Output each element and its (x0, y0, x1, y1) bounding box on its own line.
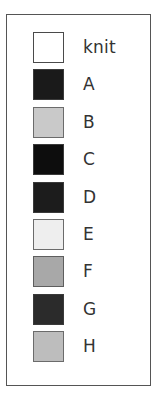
legend-label: A (83, 69, 95, 100)
legend-entry: H (7, 331, 150, 362)
legend-label: E (83, 219, 94, 250)
legend-label: knit (83, 32, 116, 63)
legend-entry-list: knitABCDEFGH (7, 15, 150, 385)
legend-panel: knitABCDEFGH (6, 14, 151, 386)
legend-swatch (33, 294, 64, 325)
legend-swatch (33, 144, 64, 175)
legend-label: G (83, 294, 96, 325)
legend-swatch (33, 331, 64, 362)
legend-label: F (83, 256, 93, 287)
legend-swatch (33, 182, 64, 213)
legend-entry: G (7, 294, 150, 325)
legend-entry: C (7, 144, 150, 175)
legend-entry: D (7, 182, 150, 213)
legend-entry: knit (7, 32, 150, 63)
legend-swatch (33, 256, 64, 287)
legend-entry: A (7, 69, 150, 100)
legend-swatch (33, 219, 64, 250)
legend-label: H (83, 331, 96, 362)
legend-entry: B (7, 107, 150, 138)
legend-entry: F (7, 256, 150, 287)
legend-label: D (83, 182, 96, 213)
legend-label: B (83, 107, 95, 138)
legend-label: C (83, 144, 95, 175)
legend-swatch (33, 69, 64, 100)
legend-swatch (33, 32, 64, 63)
legend-entry: E (7, 219, 150, 250)
legend-swatch (33, 107, 64, 138)
